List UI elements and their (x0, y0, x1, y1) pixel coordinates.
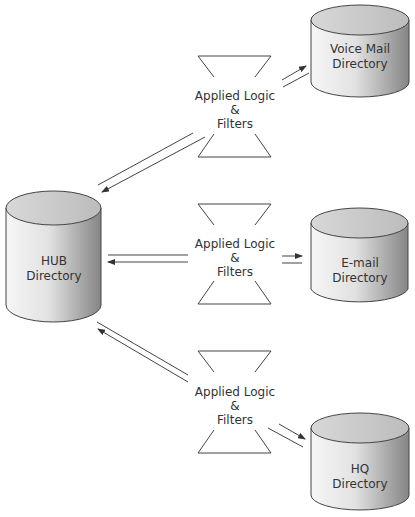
voicemail-label-line1: Voice Mail (310, 42, 410, 57)
filter-label-middle: Applied Logic & Filters (185, 237, 285, 279)
filter-label-line3: Filters (185, 413, 285, 427)
arrow-filter-to-voicemail (282, 66, 309, 87)
email-directory-cylinder (311, 208, 408, 302)
hq-directory-label: HQ Directory (310, 462, 410, 492)
hq-label-line1: HQ (310, 462, 410, 477)
voicemail-directory-label: Voice Mail Directory (310, 42, 410, 72)
filter-label-line1: Applied Logic (185, 89, 285, 103)
arrow-filter-to-hub-middle (108, 255, 188, 262)
filter-label-line2: & (185, 251, 285, 265)
email-label-line1: E-mail (310, 256, 410, 271)
filter-label-bottom: Applied Logic & Filters (185, 385, 285, 427)
filter-label-top: Applied Logic & Filters (185, 89, 285, 131)
arrow-filter-to-hub-top (98, 133, 205, 192)
filter-label-line3: Filters (185, 265, 285, 279)
email-label-line2: Directory (310, 271, 410, 286)
arrow-filter-to-hub-bottom (97, 322, 188, 382)
hub-directory-label: HUB Directory (4, 254, 104, 284)
hub-label-line1: HUB (4, 254, 104, 269)
filter-label-line2: & (185, 399, 285, 413)
hq-label-line2: Directory (310, 477, 410, 492)
filter-label-line2: & (185, 103, 285, 117)
hub-label-line2: Directory (4, 269, 104, 284)
filter-label-line1: Applied Logic (185, 237, 285, 251)
voicemail-label-line2: Directory (310, 57, 410, 72)
arrow-filter-to-hq (268, 424, 305, 447)
filter-label-line1: Applied Logic (185, 385, 285, 399)
arrow-filter-to-email (282, 256, 302, 263)
filter-label-line3: Filters (185, 117, 285, 131)
email-directory-label: E-mail Directory (310, 256, 410, 286)
